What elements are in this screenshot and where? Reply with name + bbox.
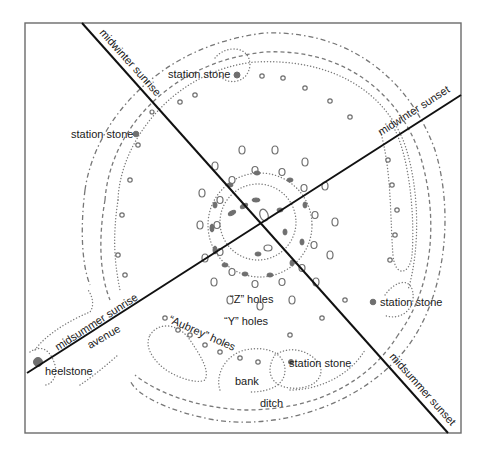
label-midwinter-sunrise: midwinter sunrise [98,26,164,98]
label-station-stone-bottom: station stone [289,357,351,369]
station-stone-top-marker [234,72,240,78]
label-z-holes: “Z” holes [230,293,274,305]
label-y-holes: “Y” holes [224,315,269,327]
ditch-outline-left [82,190,90,285]
label-midsummer-sunset: midsummer sunset [388,350,459,427]
right-bank-loop [380,130,413,271]
label-ditch: ditch [260,397,283,409]
label-bank: bank [235,375,259,387]
trilithons [228,198,287,256]
bank-inner [118,62,417,290]
station-stone-right-marker [370,299,376,305]
label-heelstone: heelstone [45,365,93,377]
label-station-stone-left: station stone [71,128,133,140]
station-stone-left-marker [133,131,139,137]
bank-inner-left [115,200,120,290]
stonehenge-diagram: midwinter sunrise midwinter sunset midsu… [0,0,483,455]
station-stone-loop-bottom [270,350,321,388]
axis-midwinter-sunrise-midsummer-sunset [82,23,448,433]
bank-left [101,200,110,300]
label-station-stone-top: station stone [168,68,230,80]
label-station-stone-right: station stone [380,296,442,308]
label-midwinter-sunset: midwinter sunset [376,83,452,138]
bank-tail-bottom [290,350,365,390]
